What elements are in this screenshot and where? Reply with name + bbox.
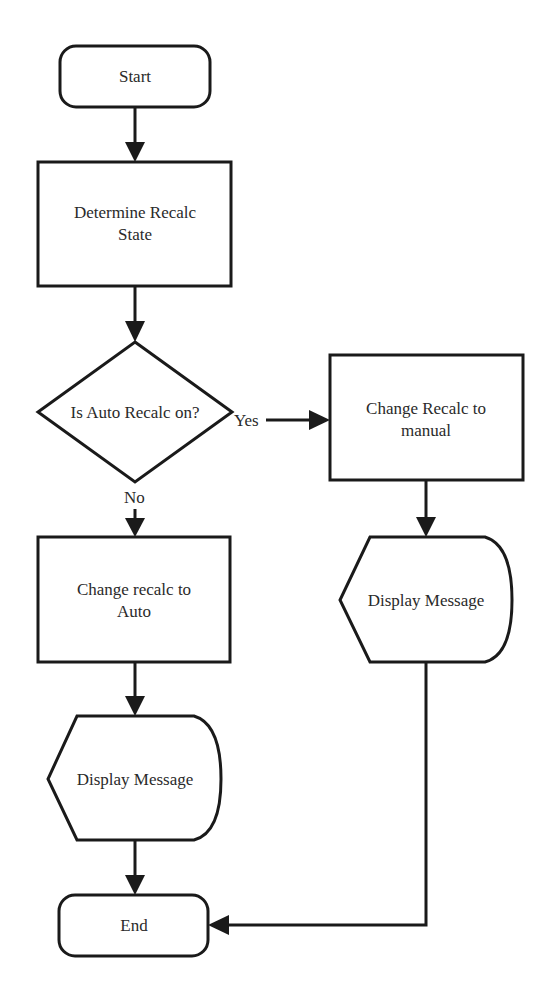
process-box: [38, 537, 230, 662]
edge-determine-to-decision: [125, 286, 145, 342]
node-decision-auto-recalc[interactable]: Is Auto Recalc on?: [38, 342, 232, 482]
arrowhead-down-icon: [125, 142, 145, 162]
determine-label-line-2: State: [118, 225, 152, 244]
process-box: [38, 162, 231, 286]
edge-display-left-to-end: [125, 840, 145, 895]
arrowhead-down-icon: [416, 517, 436, 537]
edge-display-right-to-end: [208, 662, 426, 935]
edge-manual-to-display: [416, 480, 436, 537]
node-display-message-left[interactable]: Display Message: [48, 716, 221, 840]
arrowhead-down-icon: [125, 875, 145, 895]
connector-line: [226, 662, 426, 925]
node-end[interactable]: End: [59, 895, 208, 956]
edge-no-to-auto: No: [124, 488, 145, 537]
auto-label-line-2: Auto: [117, 602, 151, 621]
manual-label-line-1: Change Recalc to: [366, 399, 486, 418]
arrowhead-down-icon: [125, 321, 145, 342]
arrowhead-down-icon: [125, 518, 145, 537]
edge-auto-to-display: [125, 662, 145, 716]
arrowhead-left-icon: [208, 915, 229, 935]
node-change-recalc-to-auto[interactable]: Change recalc to Auto: [38, 537, 230, 662]
node-start[interactable]: Start: [60, 46, 210, 107]
display-left-label: Display Message: [77, 770, 194, 789]
yes-label: Yes: [234, 411, 259, 430]
determine-label-line-1: Determine Recalc: [74, 203, 197, 222]
decision-label: Is Auto Recalc on?: [71, 403, 200, 422]
edge-start-to-determine: [125, 107, 145, 162]
start-label: Start: [119, 67, 151, 86]
node-display-message-right[interactable]: Display Message: [340, 537, 512, 662]
arrowhead-right-icon: [309, 410, 330, 430]
end-label: End: [120, 916, 148, 935]
node-change-recalc-to-manual[interactable]: Change Recalc to manual: [330, 355, 523, 480]
edge-yes-to-manual: Yes: [234, 410, 330, 430]
flowchart-canvas: Start Determine Recalc State Is Auto Rec…: [0, 0, 547, 996]
display-right-label: Display Message: [368, 591, 485, 610]
auto-label-line-1: Change recalc to: [77, 580, 191, 599]
no-label: No: [124, 488, 145, 507]
arrowhead-down-icon: [125, 696, 145, 716]
manual-label-line-2: manual: [401, 421, 451, 440]
node-determine-recalc-state[interactable]: Determine Recalc State: [38, 162, 231, 286]
